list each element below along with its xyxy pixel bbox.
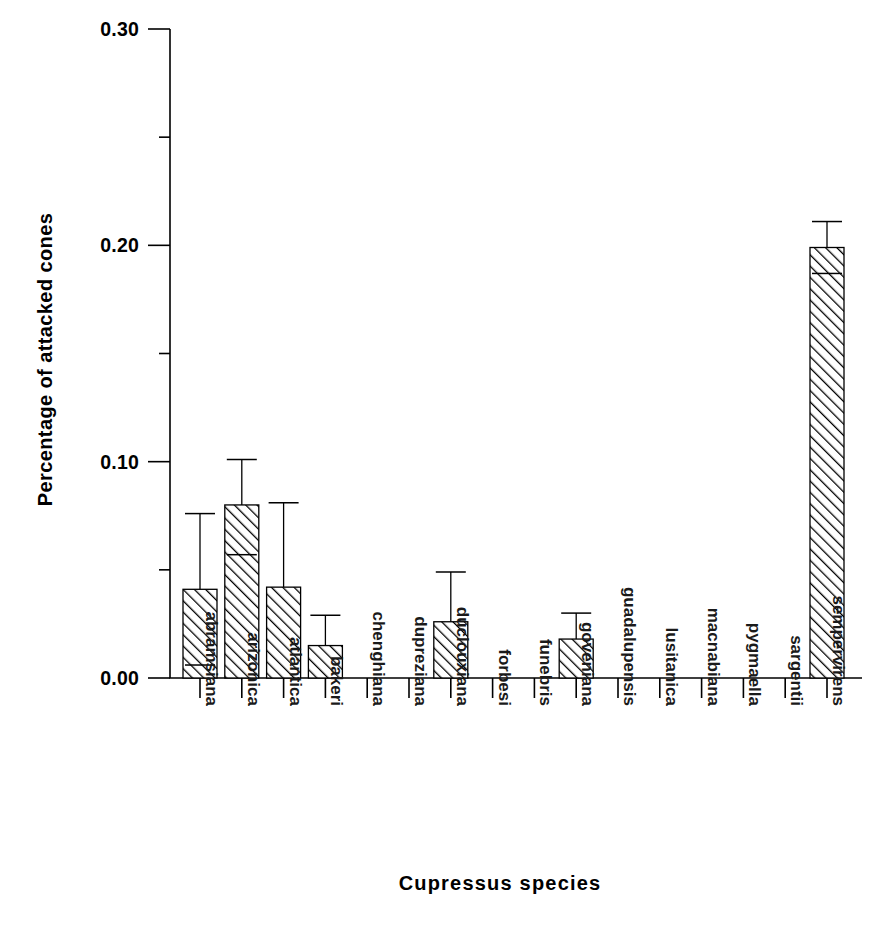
error-bar-upper: [227, 460, 257, 505]
error-bar-upper: [185, 514, 215, 590]
x-tick-label: pygmaella: [745, 623, 764, 707]
chart-figure: Percentage of attacked cones Cupressus s…: [0, 0, 879, 931]
x-tick-label: funebris: [536, 639, 555, 706]
error-bar-upper: [310, 615, 340, 645]
y-tick-label: 0.20: [100, 234, 139, 256]
y-tick-label: 0.30: [100, 18, 139, 40]
bars: [183, 247, 844, 678]
error-bar-upper: [812, 222, 842, 248]
x-tick-label: chenghiana: [369, 612, 388, 707]
error-bar-upper: [269, 503, 299, 587]
x-tick-label: bakeri: [327, 656, 346, 706]
x-tick-label: dupreziana: [411, 616, 430, 706]
axes: [170, 29, 862, 678]
bar-chart-plot: 0.000.100.200.30 abramsianaarizonicaatla…: [0, 0, 879, 931]
x-tick-label: duclouxiana: [453, 607, 472, 707]
x-tick-label: sargentii: [787, 635, 806, 706]
y-tick-label: 0.00: [100, 667, 139, 689]
x-tick-label: forbesi: [495, 649, 514, 706]
x-tick-label: guadalupensis: [620, 587, 639, 706]
x-tick-label: arizonica: [244, 632, 263, 706]
y-axis-ticks: 0.000.100.200.30: [100, 18, 170, 689]
x-tick-label: abramsiana: [202, 612, 221, 707]
x-tick-label: atlantica: [286, 637, 305, 707]
x-tick-label: lusitanica: [662, 628, 681, 707]
x-tick-label: goveniana: [578, 622, 597, 707]
x-tick-label: macnabiana: [704, 608, 723, 707]
y-tick-label: 0.10: [100, 451, 139, 473]
x-tick-label: sempervirens: [829, 595, 848, 706]
